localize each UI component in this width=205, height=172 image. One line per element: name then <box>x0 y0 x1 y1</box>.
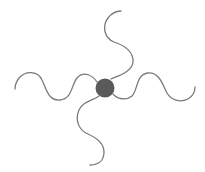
arm-left <box>15 73 97 100</box>
arm-top <box>105 11 133 79</box>
star-polymer-diagram <box>0 0 205 172</box>
arm-bottom <box>77 96 104 165</box>
arm-right <box>113 73 195 101</box>
core-circle <box>96 79 115 98</box>
